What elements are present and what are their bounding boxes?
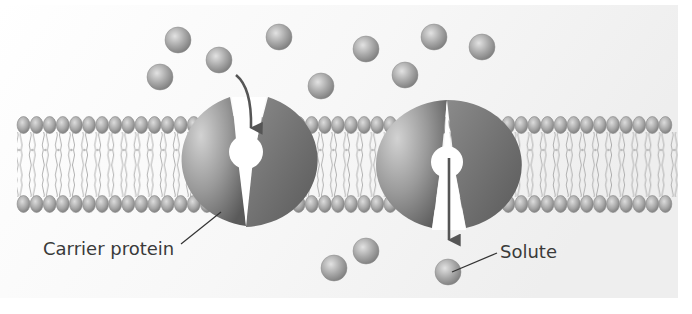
lipid-head <box>580 196 593 213</box>
solute-molecule <box>435 259 461 285</box>
lipid-head <box>554 196 567 213</box>
lipid-head <box>70 117 83 134</box>
lipid-head <box>515 196 528 213</box>
lipid-head <box>607 196 620 213</box>
lipid-head <box>567 117 580 134</box>
lipid-head <box>135 117 148 134</box>
lipid-head <box>83 196 96 213</box>
solute-label: Solute <box>500 241 557 262</box>
lipid-head <box>17 117 30 134</box>
solute-molecule <box>421 24 447 50</box>
lipid-head <box>109 117 122 134</box>
lipid-head <box>43 196 56 213</box>
lipid-head <box>135 196 148 213</box>
lipid-head <box>43 117 56 134</box>
lipid-head <box>633 117 646 134</box>
solute-molecule <box>147 64 173 90</box>
lipid-head <box>371 196 384 213</box>
carrier-protein-label: Carrier protein <box>43 238 174 259</box>
lipid-head <box>554 117 567 134</box>
lipid-head <box>148 117 161 134</box>
lipid-head <box>318 117 331 134</box>
lipid-head <box>528 117 541 134</box>
lipid-head <box>56 117 69 134</box>
solute-molecule <box>353 238 379 264</box>
lipid-head <box>109 196 122 213</box>
lipid-head <box>646 196 659 213</box>
solute-molecule <box>308 73 334 99</box>
lipid-head <box>541 196 554 213</box>
lipid-head <box>358 117 371 134</box>
solute-molecule <box>165 27 191 53</box>
lipid-head <box>567 196 580 213</box>
lipid-head <box>633 196 646 213</box>
lipid-head <box>318 196 331 213</box>
lipid-head <box>659 117 672 134</box>
lipid-head <box>358 196 371 213</box>
lipid-head <box>607 117 620 134</box>
solute-molecule <box>353 36 379 62</box>
lipid-head <box>17 196 30 213</box>
lipid-head <box>515 117 528 134</box>
lipid-head <box>96 117 109 134</box>
lipid-head <box>56 196 69 213</box>
lipid-head <box>161 117 174 134</box>
lipid-head <box>594 196 607 213</box>
diagram-canvas <box>0 0 692 314</box>
lipid-head <box>122 117 135 134</box>
lipid-head <box>620 117 633 134</box>
lipid-head <box>70 196 83 213</box>
lipid-head <box>30 196 43 213</box>
lipid-head <box>580 117 593 134</box>
lipid-head <box>305 196 318 213</box>
solute-molecule <box>469 34 495 60</box>
lipid-head <box>528 196 541 213</box>
lipid-head <box>620 196 633 213</box>
lipid-head <box>174 196 187 213</box>
lipid-head <box>30 117 43 134</box>
solute-molecule <box>392 62 418 88</box>
lipid-head <box>332 117 345 134</box>
solute-molecule <box>206 47 232 73</box>
lipid-head <box>541 117 554 134</box>
lipid-head <box>345 196 358 213</box>
lipid-head <box>122 196 135 213</box>
lipid-head <box>659 196 672 213</box>
lipid-head <box>332 196 345 213</box>
lipid-head <box>345 117 358 134</box>
lipid-head <box>371 117 384 134</box>
lipid-head <box>646 117 659 134</box>
lipid-head <box>83 117 96 134</box>
diagram-stage: Carrier protein Solute <box>0 0 692 314</box>
lipid-tails <box>17 132 678 197</box>
lipid-head <box>174 117 187 134</box>
lipid-head <box>161 196 174 213</box>
solute-molecule <box>266 24 292 50</box>
solute-molecule <box>321 255 347 281</box>
lipid-head <box>148 196 161 213</box>
lipid-head <box>594 117 607 134</box>
lipid-head <box>96 196 109 213</box>
